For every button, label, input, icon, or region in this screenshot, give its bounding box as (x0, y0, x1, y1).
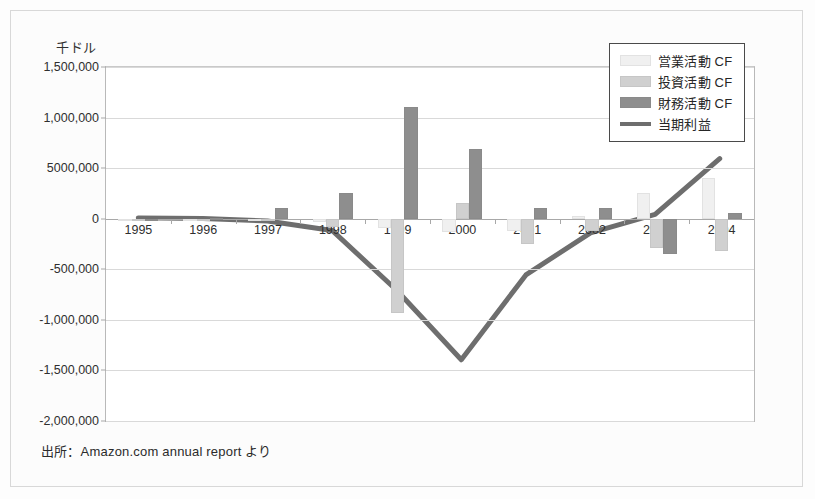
x-tick-label: 1997 (254, 223, 282, 237)
y-tick-label: -1,000,000 (39, 313, 99, 327)
x-tick-mark (236, 219, 237, 224)
y-tick-label: 1,500,000 (43, 60, 99, 74)
legend-label: 営業活動 CF (658, 51, 732, 70)
x-tick-mark (171, 219, 172, 224)
bar (313, 219, 326, 222)
bar (404, 107, 417, 218)
y-tick-label: 1,000,000 (43, 111, 99, 125)
bar (275, 208, 288, 219)
y-tick-mark (101, 319, 106, 320)
x-tick-label: 1995 (124, 223, 152, 237)
bar (572, 216, 585, 219)
bar (197, 219, 210, 221)
bar (118, 219, 131, 221)
legend-item: 投資活動 CF (620, 71, 732, 92)
legend-label: 投資活動 CF (658, 72, 732, 91)
gridline (106, 320, 754, 321)
x-tick-mark (689, 219, 690, 224)
bar (663, 219, 676, 254)
bar (391, 219, 404, 313)
legend-swatch-icon (620, 97, 651, 108)
bar (637, 193, 650, 218)
bar (521, 219, 534, 244)
bar (469, 149, 482, 219)
chart-legend: 営業活動 CF投資活動 CF財務活動 CF当期利益 (609, 43, 745, 142)
y-tick-mark (101, 370, 106, 371)
y-tick-mark (101, 269, 106, 270)
bar (183, 219, 196, 221)
bar (261, 219, 274, 221)
legend-swatch-icon (620, 118, 651, 129)
source-note: 出所：Amazon.com annual report より (41, 441, 272, 460)
y-tick-mark (101, 67, 106, 68)
y-tick-label: 0 (92, 212, 99, 226)
x-tick-mark (624, 219, 625, 224)
bar (534, 208, 547, 219)
bar (145, 219, 158, 221)
y-tick-label: -500,000 (50, 262, 99, 276)
x-tick-mark (495, 219, 496, 224)
y-tick-mark (101, 421, 106, 422)
bar (442, 219, 455, 232)
bar (702, 178, 715, 218)
cash-flow-figure: 千ドル 1,500,0001,000,0005000,0000-500,000-… (0, 0, 815, 499)
bar (456, 203, 469, 219)
y-tick-label: 5000,000 (47, 161, 99, 175)
profit-line (138, 159, 719, 360)
bar (715, 219, 728, 251)
bar (210, 218, 223, 220)
bar (599, 208, 612, 219)
x-tick-mark (430, 219, 431, 224)
gridline (106, 421, 754, 422)
y-tick-mark (101, 168, 106, 169)
y-axis-unit-label: 千ドル (56, 37, 97, 56)
legend-label: 当期利益 (658, 114, 711, 133)
bar (650, 219, 663, 248)
legend-swatch-icon (620, 76, 651, 87)
bar (585, 219, 598, 231)
gridline (106, 269, 754, 270)
bar (326, 219, 339, 227)
y-tick-label: -2,000,000 (39, 414, 99, 428)
y-tick-mark (101, 117, 106, 118)
legend-swatch-icon (620, 55, 651, 66)
legend-item: 営業活動 CF (620, 50, 732, 71)
x-tick-mark (300, 219, 301, 224)
x-tick-mark (560, 219, 561, 224)
x-tick-label: 1996 (189, 223, 217, 237)
y-tick-label: -1,500,000 (39, 363, 99, 377)
bar (507, 219, 520, 231)
legend-item: 財務活動 CF (620, 92, 732, 113)
bar (378, 219, 391, 228)
gridline (106, 168, 754, 169)
bar (132, 219, 145, 221)
legend-label: 財務活動 CF (658, 93, 732, 112)
gridline (106, 370, 754, 371)
bar (339, 193, 352, 218)
bar (728, 213, 741, 219)
y-tick-mark (101, 218, 106, 219)
bar (248, 219, 261, 221)
x-tick-mark (365, 219, 366, 224)
legend-item: 当期利益 (620, 113, 732, 134)
